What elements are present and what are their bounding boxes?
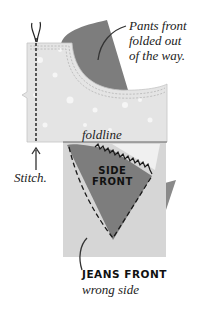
pants-front-line-3: of the way. [129, 48, 198, 63]
pants-front-line-2: folded out [129, 33, 198, 48]
stitch-arrow [32, 148, 40, 170]
jeans-front-subtitle: wrong side [82, 282, 139, 297]
side-front-line-2: FRONT [92, 176, 133, 187]
stitch-label: Stitch. [14, 170, 47, 185]
pants-front-line-1: Pants front [129, 18, 198, 33]
pants-front-callout: Pants front folded out of the way. [129, 18, 198, 63]
jeans-front-title: JEANS FRONT [82, 268, 167, 280]
side-front-label: SIDE FRONT [92, 165, 133, 187]
folded-edge-triangle [165, 180, 176, 213]
foldline-label: foldline [82, 127, 122, 142]
side-front-line-1: SIDE [92, 165, 133, 176]
